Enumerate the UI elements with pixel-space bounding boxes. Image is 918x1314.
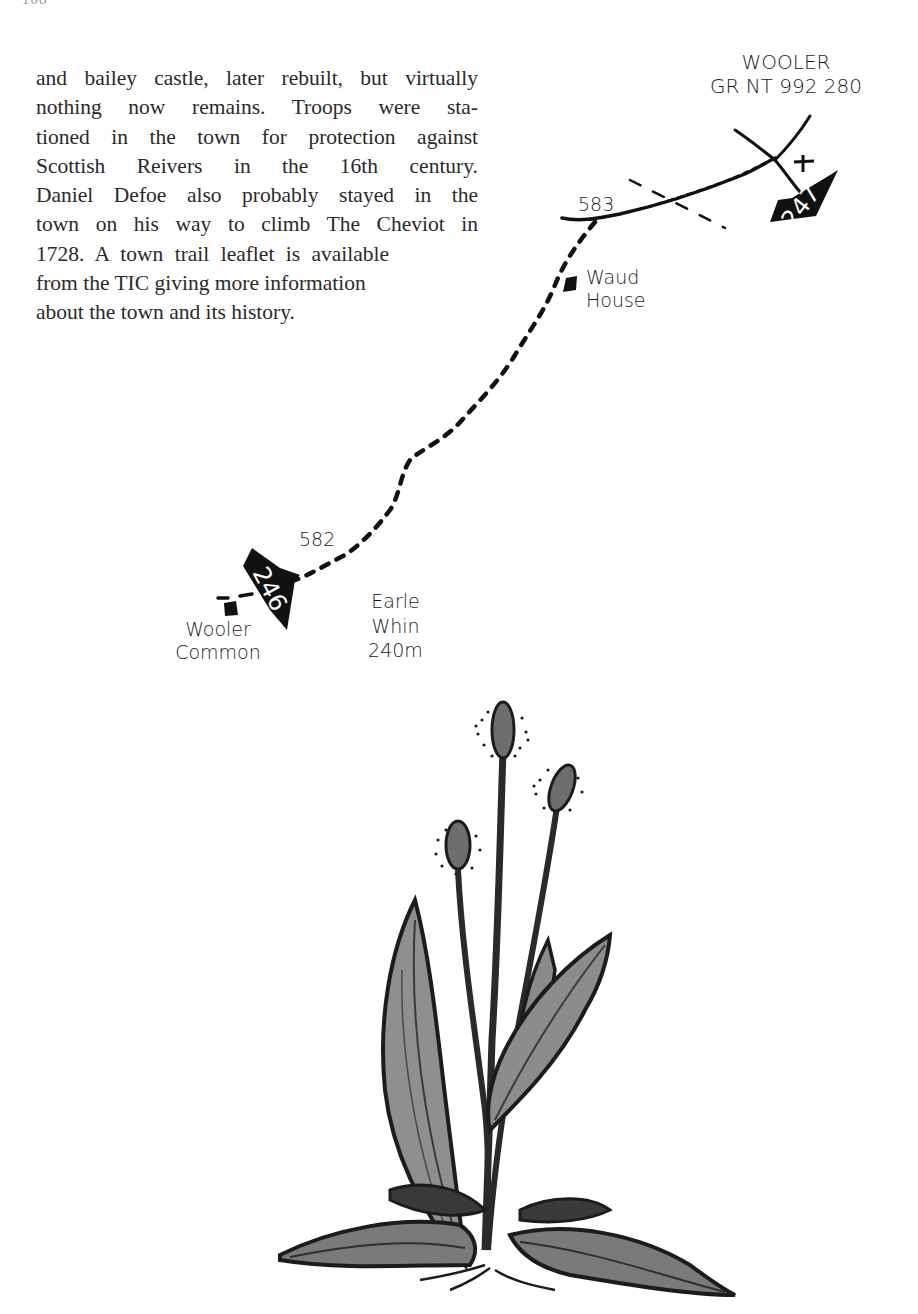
flower-head (474, 702, 529, 758)
place-line: 240m (358, 638, 433, 663)
church-icon (794, 155, 814, 172)
destination-label: WOOLER GR NT 992 280 (700, 50, 872, 98)
plant-illustration (270, 690, 750, 1310)
place-line: Earle (358, 589, 433, 614)
leaf (390, 1185, 485, 1215)
leaf (520, 1199, 610, 1222)
place-line: Waud (586, 266, 646, 289)
place-waud-house: Waud House (586, 266, 646, 312)
place-line: House (586, 289, 646, 312)
footpath-route (295, 222, 595, 580)
roots (420, 1265, 555, 1290)
destination-name: WOOLER (700, 50, 872, 74)
place-line: Whin (358, 614, 433, 639)
place-line: Common (168, 641, 268, 664)
building-icon (563, 276, 577, 292)
place-wooler-common: Wooler Common (168, 618, 268, 664)
place-line: Wooler (168, 618, 268, 641)
spot-height-583: 583 (578, 193, 614, 216)
route-map: 247 246 (0, 0, 918, 690)
waypoint-247-marker: 247 (770, 170, 838, 233)
road-line (775, 116, 810, 160)
flower-head (434, 821, 481, 876)
grid-reference: GR NT 992 280 (700, 74, 872, 98)
place-earle-whin: Earle Whin 240m (358, 589, 433, 663)
building-icon (224, 601, 238, 616)
flower-head (532, 762, 583, 815)
spot-height-582: 582 (299, 528, 335, 551)
